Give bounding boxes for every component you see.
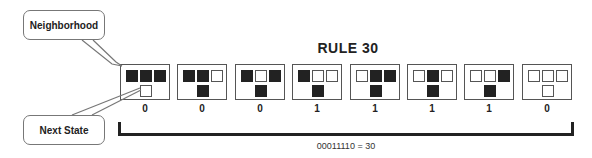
neighborhood-callout: Neighborhood [23,10,105,40]
next-state-callout: Next State [23,115,105,145]
